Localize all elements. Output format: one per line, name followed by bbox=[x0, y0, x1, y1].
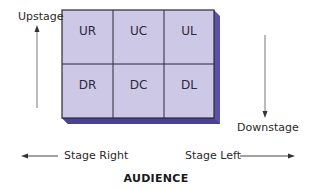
cell-uc: UC bbox=[113, 24, 164, 38]
stage-right-label: Stage Right bbox=[64, 149, 128, 162]
audience-label: AUDIENCE bbox=[0, 172, 312, 185]
cell-dr: DR bbox=[62, 78, 113, 92]
stage-right-arrow-head-icon bbox=[21, 154, 28, 159]
cell-ur: UR bbox=[62, 24, 113, 38]
downstage-label: Downstage bbox=[237, 121, 299, 134]
cell-ul: UL bbox=[164, 24, 214, 38]
downstage-arrow-head-icon bbox=[263, 111, 268, 118]
cell-dl: DL bbox=[164, 78, 214, 92]
stage-left-label: Stage Left bbox=[185, 149, 241, 162]
stage-box-extrusion-edge bbox=[62, 118, 220, 124]
cell-dc: DC bbox=[113, 78, 164, 92]
stage-left-arrow-head-icon bbox=[288, 154, 295, 159]
upstage-arrow-head-icon bbox=[35, 25, 40, 32]
upstage-label: Upstage bbox=[18, 10, 64, 23]
